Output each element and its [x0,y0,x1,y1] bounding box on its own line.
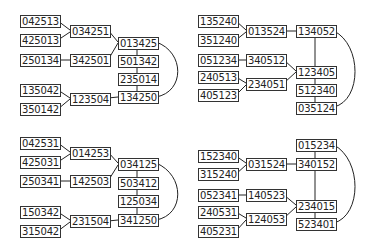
permutation-node: 135240 [198,15,239,28]
permutation-node: 123405 [296,66,337,79]
permutation-node: 150342 [20,206,61,219]
permutation-node: 235014 [118,73,159,86]
permutation-node: 140523 [246,189,287,202]
permutation-node: 134250 [118,91,159,104]
permutation-node: 240531 [198,206,239,219]
permutation-node: 142503 [70,175,111,188]
permutation-node: 013524 [246,25,287,38]
permutation-node: 042513 [20,15,61,28]
permutation-node: 425031 [20,156,61,169]
permutation-node: 523401 [296,218,337,231]
permutation-node: 240513 [198,71,239,84]
permutation-node: 125034 [118,195,159,208]
permutation-node: 013425 [118,37,159,50]
permutation-node: 340512 [246,54,287,67]
permutation-node: 034251 [70,25,111,38]
permutation-node: 405231 [198,225,239,238]
permutation-node: 315042 [20,225,61,238]
permutation-node: 234051 [246,78,287,91]
permutation-node: 123504 [70,93,111,106]
permutation-node: 315240 [198,168,239,181]
permutation-node: 351240 [198,34,239,47]
permutation-node: 340152 [296,158,337,171]
permutation-node: 135042 [20,84,61,97]
permutation-node: 341250 [118,214,159,227]
permutation-node: 035124 [296,102,337,115]
permutation-node: 234015 [296,200,337,213]
permutation-node: 231504 [70,215,111,228]
permutation-node: 052341 [198,189,239,202]
permutation-node: 034125 [118,158,159,171]
permutation-node: 250134 [20,54,61,67]
permutation-node: 152340 [198,150,239,163]
permutation-node: 014253 [70,147,111,160]
permutation-node: 031524 [246,158,287,171]
permutation-node: 350142 [20,103,61,116]
permutation-node: 405123 [198,89,239,102]
permutation-node: 425013 [20,34,61,47]
permutation-node: 042531 [20,137,61,150]
permutation-node: 134052 [296,25,337,38]
permutation-node: 342501 [70,54,111,67]
permutation-node: 051234 [198,54,239,67]
permutation-node: 250341 [20,175,61,188]
permutation-node: 503412 [118,177,159,190]
permutation-node: 124053 [246,213,287,226]
permutation-node: 501342 [118,55,159,68]
permutation-node: 015234 [296,139,337,152]
permutation-node: 512340 [296,84,337,97]
